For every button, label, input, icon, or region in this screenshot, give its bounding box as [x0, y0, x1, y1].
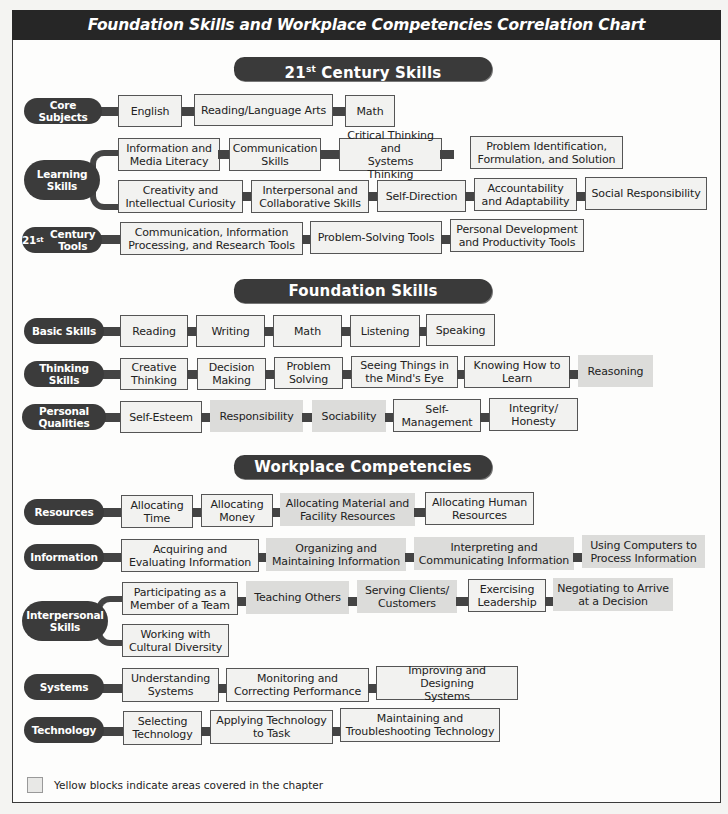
section-header-workplace-competencies: Workplace Competencies	[234, 455, 492, 479]
category-systems: Systems	[24, 674, 104, 700]
skill-box: Exercising Leadership	[468, 579, 546, 612]
highlighted-skill-box: Teaching Others	[246, 581, 349, 614]
skill-box: Personal Development and Productivity To…	[450, 219, 584, 252]
highlighted-skill-box: Responsibility	[210, 400, 303, 432]
skill-box: Self- Management	[393, 399, 481, 432]
skill-box: Maintaining and Troubleshooting Technolo…	[340, 708, 500, 742]
section-header-21st-century-skills: 21st Century Skills	[234, 57, 492, 81]
skill-box: Problem Solving	[274, 357, 343, 389]
skill-box: Seeing Things in the Mind's Eye	[351, 356, 458, 388]
skill-box: Interpersonal and Collaborative Skills	[251, 180, 369, 213]
skill-box: Information and Media Literacy	[118, 138, 220, 171]
skill-box: Reading/Language Arts	[194, 94, 333, 126]
category-interpersonal-skills: Interpersonal Skills	[22, 601, 108, 641]
skill-box: Problem-Solving Tools	[310, 221, 442, 254]
skill-box: Allocating Money	[201, 494, 273, 527]
category-label: 21	[22, 234, 36, 246]
legend-text: Yellow blocks indicate areas covered in …	[54, 777, 323, 793]
skill-box: Allocating Time	[121, 495, 193, 528]
category-personal-qualities: Personal Qualities	[22, 404, 106, 430]
skill-box: Self-Direction	[377, 180, 466, 212]
connector	[440, 150, 454, 159]
category-label: Interpersonal Skills	[26, 609, 104, 633]
skill-box: Allocating Human Resources	[425, 492, 534, 525]
skill-box: Creative Thinking	[120, 358, 188, 390]
skill-box: Speaking	[426, 314, 495, 346]
connector	[320, 150, 340, 159]
highlighted-skill-box: Allocating Material and Facility Resourc…	[280, 493, 415, 526]
section-title-part: 21	[285, 64, 306, 82]
skill-box: Problem Identification, Formulation, and…	[470, 136, 623, 169]
skill-box: Working with Cultural Diversity	[122, 624, 229, 657]
category-21st-century-tools: 21st Century Tools	[22, 227, 102, 253]
highlighted-skill-box: Using Computers to Process Information	[582, 535, 705, 568]
category-information: Information	[24, 544, 104, 570]
connector	[456, 597, 468, 606]
category-resources: Resources	[24, 499, 104, 525]
category-core-subjects: Core Subjects	[24, 98, 102, 124]
skill-box: Math	[345, 95, 395, 127]
category-label: Century Tools	[43, 228, 102, 252]
skill-box: Decision Making	[197, 358, 266, 390]
connector	[302, 413, 312, 422]
skill-box: Integrity/ Honesty	[489, 398, 578, 431]
skill-box: Math	[273, 315, 342, 347]
chart-title: Foundation Skills and Workplace Competen…	[12, 10, 721, 40]
category-thinking-skills: Thinking Skills	[24, 361, 104, 387]
skill-box: Critical Thinking and Systems Thinking	[339, 138, 442, 171]
skill-box: Monitoring and Correcting Performance	[226, 668, 369, 702]
legend-swatch	[27, 777, 43, 793]
skill-box: Social Responsibility	[585, 177, 707, 210]
skill-box: Communication Skills	[229, 138, 321, 171]
skill-box: Participating as a Member of a Team	[122, 582, 238, 615]
highlighted-skill-box: Sociability	[312, 400, 386, 432]
category-basic-skills: Basic Skills	[24, 318, 104, 344]
skill-box: Creativity and Intellectual Curiosity	[118, 180, 243, 213]
skill-box: Understanding Systems	[122, 668, 219, 702]
highlighted-skill-box: Negotiating to Arrive at a Decision	[553, 578, 673, 611]
skill-box: Knowing How to Learn	[464, 356, 570, 388]
category-technology: Technology	[24, 717, 104, 743]
skill-box: Acquiring and Evaluating Information	[121, 539, 259, 572]
skill-box: English	[118, 95, 182, 127]
skill-box: Reading	[120, 315, 188, 347]
skill-box: Accountability and Adaptability	[474, 178, 577, 211]
skill-box: Writing	[196, 315, 265, 347]
skill-box: Communication, Information Processing, a…	[120, 222, 303, 255]
section-header-foundation-skills: Foundation Skills	[234, 279, 492, 303]
highlighted-skill-box: Reasoning	[578, 355, 653, 387]
skill-box: Self-Esteem	[120, 401, 202, 433]
category-label-sup: st	[36, 234, 43, 246]
category-label: Learning Skills	[37, 168, 88, 192]
category-learning-skills: Learning Skills	[24, 160, 100, 200]
highlighted-skill-box: Serving Clients/ Customers	[357, 580, 457, 613]
skill-box: Selecting Technology	[123, 711, 202, 745]
highlighted-skill-box: Interpreting and Communicating Informati…	[414, 537, 574, 570]
highlighted-skill-box: Organizing and Maintaining Information	[266, 538, 406, 571]
skill-box: Improving and Designing Systems	[376, 666, 518, 700]
section-title-sup: st	[306, 64, 316, 74]
skill-box: Applying Technology to Task	[210, 710, 333, 744]
section-title-part: Century Skills	[316, 64, 441, 82]
skill-box: Listening	[350, 315, 420, 347]
